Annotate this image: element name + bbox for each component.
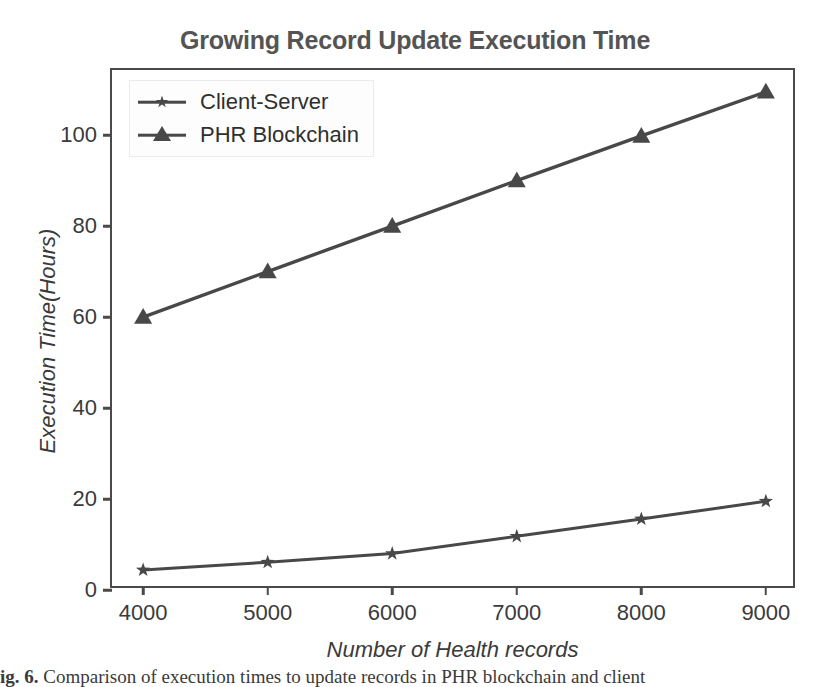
figure-caption: ig. 6. Comparison of execution times to … xyxy=(0,666,830,687)
y-tick-mark xyxy=(103,589,112,592)
x-tick-mark xyxy=(765,586,768,595)
x-tick-label: 8000 xyxy=(617,600,666,626)
legend-swatch-phr-blockchain xyxy=(138,125,186,145)
line-client-server xyxy=(143,501,766,570)
triangle-marker-icon xyxy=(153,126,171,141)
x-axis-label: Number of Health records xyxy=(110,637,795,663)
y-tick-mark xyxy=(103,225,112,228)
caption-prefix: ig. 6. xyxy=(0,666,39,687)
y-tick-mark xyxy=(103,407,112,410)
x-tick-mark xyxy=(516,586,519,595)
data-point-star xyxy=(136,562,150,576)
plot-frame: 020406080100 400050006000700080009000 Cl… xyxy=(110,68,795,588)
y-tick-label: 80 xyxy=(73,213,97,239)
data-point-star xyxy=(634,512,648,526)
legend[interactable]: Client-Server PHR Blockchain xyxy=(129,80,374,157)
legend-label-phr-blockchain: PHR Blockchain xyxy=(200,122,359,148)
data-point-star xyxy=(759,494,773,508)
data-point-star xyxy=(261,555,275,569)
legend-swatch-client-server xyxy=(138,92,186,112)
x-tick-label: 6000 xyxy=(368,600,417,626)
figure-container: Growing Record Update Execution Time 020… xyxy=(0,0,830,687)
y-tick-label: 60 xyxy=(73,304,97,330)
legend-item-client-server[interactable]: Client-Server xyxy=(138,87,359,117)
x-tick-mark xyxy=(391,586,394,595)
x-tick-mark xyxy=(640,586,643,595)
data-point-triangle xyxy=(757,83,775,99)
x-tick-mark xyxy=(266,586,269,595)
x-tick-label: 9000 xyxy=(741,600,790,626)
y-tick-mark xyxy=(103,316,112,319)
data-point-star xyxy=(385,546,399,560)
y-tick-label: 20 xyxy=(73,486,97,512)
y-axis-label: Execution Time(Hours) xyxy=(35,81,61,601)
y-tick-label: 100 xyxy=(60,122,97,148)
x-tick-label: 7000 xyxy=(492,600,541,626)
y-tick-label: 0 xyxy=(85,577,97,603)
x-tick-label: 5000 xyxy=(243,600,292,626)
plot-area: 020406080100 400050006000700080009000 Cl… xyxy=(112,70,793,586)
data-point-star xyxy=(510,529,524,543)
y-tick-label: 40 xyxy=(73,395,97,421)
caption-text: Comparison of execution times to update … xyxy=(39,666,646,687)
y-tick-mark xyxy=(103,498,112,501)
chart-title: Growing Record Update Execution Time xyxy=(0,26,830,55)
x-tick-label: 4000 xyxy=(119,600,168,626)
x-tick-mark xyxy=(142,586,145,595)
legend-item-phr-blockchain[interactable]: PHR Blockchain xyxy=(138,120,359,150)
legend-label-client-server: Client-Server xyxy=(200,89,328,115)
y-tick-mark xyxy=(103,134,112,137)
